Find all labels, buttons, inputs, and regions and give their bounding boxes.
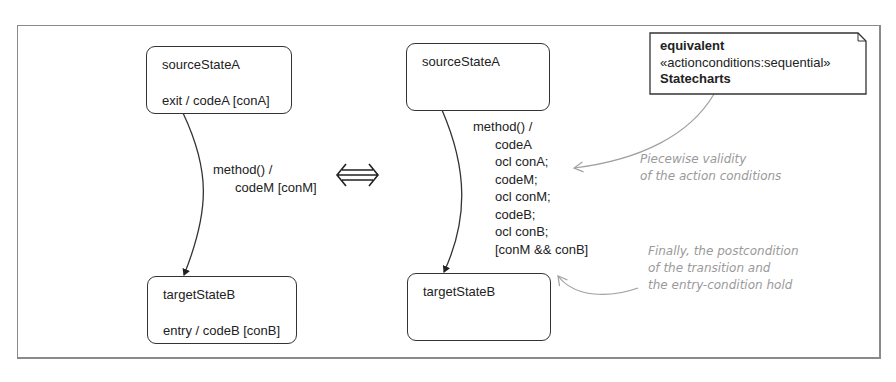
transition-line: method() /: [473, 118, 588, 136]
comment-line: Finally, the postcondition: [648, 243, 799, 260]
transition-line: codeM;: [473, 171, 588, 189]
right-transition-label: method() / codeA ocl conA; codeM; ocl co…: [473, 118, 588, 258]
state-exit-action: exit / codeA [conA]: [162, 93, 270, 108]
transition-line: ocl conA;: [473, 153, 588, 171]
left-target-state: targetStateB entry / codeB [conB]: [147, 276, 297, 344]
transition-line: codeB;: [473, 206, 588, 224]
finally-comment: Finally, the postcondition of the transi…: [648, 243, 799, 294]
stereotype-note: equivalent «actionconditions:sequential»…: [650, 33, 866, 94]
transition-line: ocl conM;: [473, 188, 588, 206]
left-transition-arrow: [183, 113, 203, 275]
note-subject: Statecharts: [660, 71, 856, 88]
state-name: targetStateB: [423, 284, 495, 299]
comment-line: the entry-condition hold: [648, 277, 799, 294]
transition-line: method() /: [213, 161, 317, 179]
left-source-state: sourceStateA exit / codeA [conA]: [146, 46, 292, 114]
transition-line: codeA: [473, 136, 588, 154]
transition-line: ocl conB;: [473, 223, 588, 241]
state-name: sourceStateA: [162, 57, 240, 72]
equivalence-double-arrow-icon: [337, 164, 378, 186]
comment-line: Piecewise validity: [640, 151, 781, 168]
left-transition-label: method() / codeM [conM]: [213, 161, 317, 196]
right-target-state: targetStateB: [407, 273, 551, 341]
finally-comment-arrow: [558, 276, 638, 294]
note-stereotype: «actionconditions:sequential»: [660, 55, 856, 72]
right-transition-arrow: [442, 110, 462, 272]
comment-line: of the transition and: [648, 260, 799, 277]
note-title: equivalent: [660, 38, 856, 55]
transition-line: [conM && conB]: [473, 241, 588, 259]
state-name: sourceStateA: [422, 54, 500, 69]
state-name: targetStateB: [163, 287, 235, 302]
piecewise-comment: Piecewise validity of the action conditi…: [640, 151, 781, 185]
transition-line: codeM [conM]: [213, 179, 317, 197]
state-entry-action: entry / codeB [conB]: [163, 323, 280, 338]
right-source-state: sourceStateA: [406, 43, 550, 111]
comment-line: of the action conditions: [640, 168, 781, 185]
